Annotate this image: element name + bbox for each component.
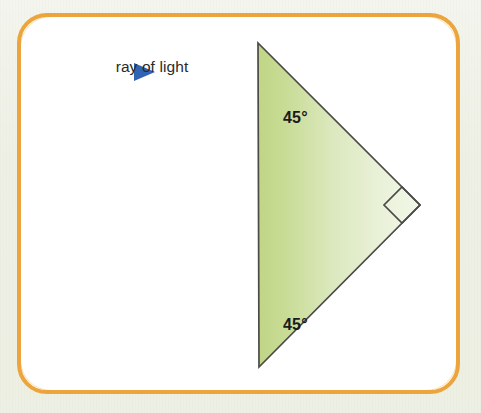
diagram-canvas	[21, 17, 464, 398]
angle-label-bottom: 45°	[283, 316, 308, 334]
diagram-panel: ray of light 45° 45°	[17, 13, 460, 394]
ray-of-light-label: ray of light	[89, 58, 215, 76]
angle-label-top: 45°	[283, 109, 308, 127]
figure-root: ray of light 45° 45°	[0, 0, 481, 413]
